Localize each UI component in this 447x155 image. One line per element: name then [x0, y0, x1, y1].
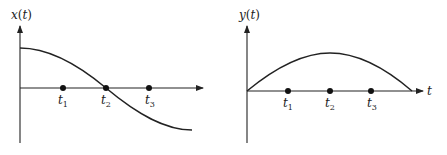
left-point-t3 — [146, 85, 152, 91]
right-point-t2 — [327, 88, 333, 94]
left-label-t1: t1 — [58, 93, 68, 109]
figure: x(t) t1 t2 t3 y(t) t t1 t2 t3 — [0, 0, 447, 155]
right-label-t2: t2 — [325, 96, 335, 112]
left-label-t2: t2 — [101, 93, 111, 109]
right-panel-y-of-t: y(t) t t1 t2 t3 — [238, 8, 432, 143]
right-curve-y-of-t — [247, 53, 412, 91]
right-label-t3: t3 — [367, 96, 377, 112]
right-label-t1: t1 — [283, 96, 293, 112]
left-point-t1 — [60, 85, 66, 91]
left-y-axis-label: x(t) — [11, 8, 32, 22]
left-panel-x-of-t: x(t) t1 t2 t3 — [11, 8, 203, 143]
right-point-t3 — [368, 88, 374, 94]
right-y-axis-label: y(t) — [238, 8, 260, 22]
left-point-t2 — [103, 85, 109, 91]
right-x-axis-label: t — [427, 84, 432, 98]
right-point-t1 — [285, 88, 291, 94]
left-label-t3: t3 — [145, 93, 155, 109]
